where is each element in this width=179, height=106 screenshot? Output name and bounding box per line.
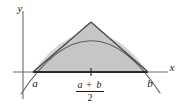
parabola-figure: y x a b a + b 2	[0, 0, 179, 106]
inscribed-triangle-shading	[33, 22, 148, 72]
y-axis-label: y	[17, 2, 23, 14]
figure-canvas: y x a b a + b 2	[0, 0, 179, 106]
fraction-numerator-a: a	[78, 79, 83, 90]
x-axis-label: x	[169, 61, 175, 73]
fraction-denominator: 2	[88, 92, 93, 103]
fraction-numerator-b: b	[97, 79, 102, 90]
point-a-label: a	[32, 77, 38, 89]
midpoint-fraction-label: a + b 2	[76, 79, 104, 103]
point-b-label: b	[147, 77, 153, 89]
fraction-numerator-plus: +	[86, 79, 92, 90]
